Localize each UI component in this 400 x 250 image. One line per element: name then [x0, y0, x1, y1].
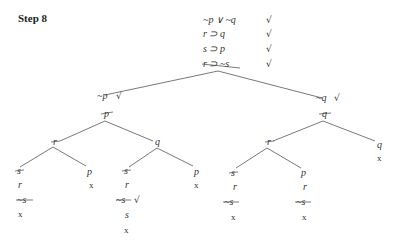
check-icon: √ — [334, 93, 340, 103]
premise-2: r ⊃ q — [203, 28, 225, 39]
node-not-p: ~p — [97, 90, 107, 101]
right-branch: ~q √ q r q x s r ~s x p r ~s x — [223, 92, 382, 222]
premise-1: ~p ∨ ~q — [203, 14, 236, 25]
premise-4: r ⊃ ~s — [203, 58, 229, 69]
truth-tree-diagram: Step 8 ~p ∨ ~q √ r ⊃ q √ s ⊃ p √ r ⊃ ~s … — [0, 0, 400, 250]
check-icon: √ — [266, 44, 272, 54]
node-q: q — [155, 136, 160, 147]
node-not-s-struck: ~s — [116, 194, 125, 205]
closed-mark: x — [302, 212, 307, 222]
node-p: p — [86, 166, 92, 177]
premise-list: ~p ∨ ~q √ r ⊃ q √ s ⊃ p √ r ⊃ ~s √ — [202, 14, 272, 69]
closed-mark: x — [231, 212, 236, 222]
check-icon: √ — [266, 29, 272, 39]
node-r: r — [125, 179, 129, 190]
node-not-s-struck: ~s — [296, 196, 305, 207]
left-branch: ~p √ p r q s r ~s x p x s r ~s √ s x p x — [15, 90, 199, 235]
node-r: r — [233, 181, 237, 192]
premise-3: s ⊃ p — [203, 43, 225, 54]
check-icon: √ — [134, 195, 140, 205]
check-icon: √ — [266, 59, 272, 69]
closed-mark: x — [124, 225, 129, 235]
check-icon: √ — [116, 91, 122, 101]
node-not-q: ~q — [316, 92, 326, 103]
node-p: p — [193, 166, 199, 177]
closed-mark: x — [89, 180, 94, 190]
step-title: Step 8 — [18, 12, 48, 24]
check-icon: √ — [266, 15, 272, 25]
node-r: r — [18, 179, 22, 190]
node-q: q — [377, 139, 382, 150]
node-not-s-struck: ~s — [17, 194, 26, 205]
closed-mark: x — [194, 180, 199, 190]
node-not-s-struck: ~s — [224, 196, 233, 207]
tree-edges — [20, 71, 375, 168]
closed-mark: x — [377, 153, 382, 163]
closed-mark: x — [18, 209, 23, 219]
node-r: r — [303, 181, 307, 192]
node-p: p — [300, 167, 306, 178]
node-s: s — [125, 209, 129, 220]
